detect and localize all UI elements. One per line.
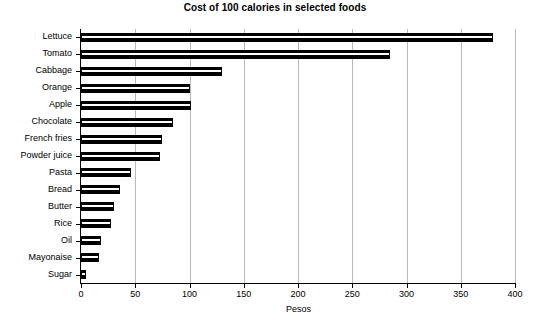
bar: [81, 168, 131, 177]
y-axis-tick-label: Bread: [0, 185, 72, 194]
x-gridline: [352, 29, 353, 283]
y-axis-tick-label: Tomato: [0, 49, 72, 58]
x-axis-tick: [81, 284, 82, 288]
bar: [81, 84, 190, 93]
y-axis-tick-label: Apple: [0, 100, 72, 109]
y-axis-tick: [76, 156, 80, 157]
y-axis-tick-label: Lettuce: [0, 32, 72, 41]
bar: [81, 101, 191, 110]
y-axis-tick: [76, 275, 80, 276]
x-axis-tick-label: 350: [441, 289, 481, 299]
y-axis-tick: [76, 241, 80, 242]
y-axis-tick: [76, 54, 80, 55]
y-axis-tick: [76, 258, 80, 259]
x-gridline: [407, 29, 408, 283]
y-axis-tick-label: Pasta: [0, 168, 72, 177]
x-axis-tick: [461, 284, 462, 288]
x-axis-tick-label: 150: [224, 289, 264, 299]
y-axis-tick-label: Rice: [0, 219, 72, 228]
plot-area: [81, 29, 515, 283]
bar: [81, 118, 173, 127]
x-axis-tick: [190, 284, 191, 288]
y-axis-tick: [76, 173, 80, 174]
x-axis-tick-label: 200: [278, 289, 318, 299]
y-axis-tick-label: Oil: [0, 236, 72, 245]
bar: [81, 185, 120, 194]
x-axis-tick-label: 250: [332, 289, 372, 299]
y-axis-tick-label: French fries: [0, 134, 72, 143]
x-axis-tick: [244, 284, 245, 288]
y-axis-tick-label: Orange: [0, 83, 72, 92]
y-axis-tick: [76, 37, 80, 38]
bar: [81, 253, 99, 262]
y-axis-tick-label: Butter: [0, 202, 72, 211]
x-gridline: [461, 29, 462, 283]
x-gridline: [244, 29, 245, 283]
chart-figure: Cost of 100 calories in selected foods P…: [0, 0, 550, 330]
y-axis-tick: [76, 88, 80, 89]
x-axis-tick: [298, 284, 299, 288]
y-axis-tick: [76, 207, 80, 208]
chart-title: Cost of 100 calories in selected foods: [0, 2, 550, 13]
bar: [81, 33, 493, 42]
x-axis-tick: [352, 284, 353, 288]
bar: [81, 135, 162, 144]
y-axis-tick: [76, 224, 80, 225]
x-axis-tick-label: 50: [115, 289, 155, 299]
y-axis-tick-label: Sugar: [0, 270, 72, 279]
y-axis-tick-label: Mayonaise: [0, 253, 72, 262]
x-axis-tick-label: 400: [495, 289, 535, 299]
x-axis-label: Pesos: [81, 304, 516, 314]
x-axis-tick-label: 300: [387, 289, 427, 299]
y-axis-tick-label: Powder juice: [0, 151, 72, 160]
x-axis-tick-label: 0: [61, 289, 101, 299]
y-axis-tick-label: Cabbage: [0, 66, 72, 75]
x-gridline: [515, 29, 516, 283]
y-axis-tick-label: Chocolate: [0, 117, 72, 126]
bar: [81, 152, 160, 161]
bar: [81, 219, 111, 228]
bar: [81, 50, 390, 59]
x-gridline: [298, 29, 299, 283]
bar: [81, 270, 86, 279]
x-axis-tick: [407, 284, 408, 288]
y-axis-tick: [76, 105, 80, 106]
y-axis-tick: [76, 139, 80, 140]
x-axis-tick-label: 100: [170, 289, 210, 299]
y-axis-tick: [76, 122, 80, 123]
y-axis-tick: [76, 71, 80, 72]
x-axis-tick: [135, 284, 136, 288]
x-axis-tick: [515, 284, 516, 288]
bar: [81, 236, 101, 245]
y-axis-tick: [76, 190, 80, 191]
bar: [81, 67, 222, 76]
bar: [81, 202, 114, 211]
